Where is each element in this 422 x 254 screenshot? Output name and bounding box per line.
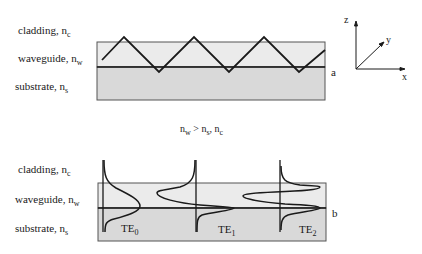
y-axis-label: y	[386, 35, 391, 45]
x-axis-label: x	[402, 72, 407, 82]
mode-label-te1: TE1	[218, 223, 235, 235]
top-waveguide-structure	[97, 37, 325, 100]
top-substrate-layer	[97, 67, 325, 100]
mode-label-te0: TE0	[121, 222, 138, 234]
bottom-label-cladding: cladding, nc	[18, 163, 70, 175]
bottom-label-substrate: substrate, ns	[15, 222, 68, 234]
y-axis	[356, 44, 382, 69]
index-condition: nw > ns, nc	[180, 123, 223, 135]
coordinate-axes	[355, 21, 406, 71]
z-axis-label: z	[344, 15, 348, 25]
marker-b: b	[332, 207, 338, 219]
z-arrowhead-icon	[355, 21, 358, 26]
marker-a: a	[331, 66, 336, 78]
bottom-label-waveguide: waveguide, nw	[15, 193, 79, 205]
mode-label-te2: TE2	[299, 223, 316, 235]
